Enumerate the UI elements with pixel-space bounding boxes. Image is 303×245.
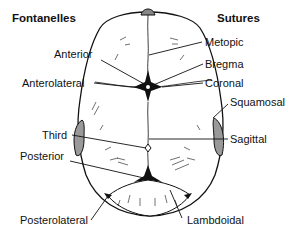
label-posterolateral-fontanelle: Posterolateral xyxy=(20,214,88,226)
label-anterolateral-fontanelle: Anterolateral xyxy=(22,77,84,89)
sutures-heading: Sutures xyxy=(217,12,260,24)
label-posterior-fontanelle: Posterior xyxy=(20,150,64,162)
fontanelles-heading: Fontanelles xyxy=(12,12,76,24)
label-squamosal-suture: Squamosal xyxy=(230,96,285,108)
label-bregma-suture: Bregma xyxy=(205,58,244,70)
label-third-fontanelle: Third xyxy=(42,129,67,141)
label-sagittal-suture: Sagittal xyxy=(230,133,267,145)
label-coronal-suture: Coronal xyxy=(205,77,244,89)
label-anterior-fontanelle: Anterior xyxy=(54,48,93,60)
label-lambdoidal-suture: Lambdoidal xyxy=(187,214,244,226)
left-temporal-shaded xyxy=(74,120,84,156)
nasal-bone xyxy=(141,9,155,15)
label-metopic-suture: Metopic xyxy=(205,36,244,48)
skull-diagram xyxy=(0,0,303,245)
